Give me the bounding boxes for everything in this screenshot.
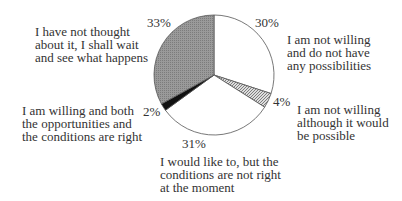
pct-label-s0: 30% bbox=[255, 16, 279, 29]
pct-label-s4: 33% bbox=[147, 16, 171, 29]
slice-label-s0: I am not willing and do not have any pos… bbox=[287, 33, 371, 72]
slice-label-s3: I am willing and both the opportunities … bbox=[22, 104, 142, 143]
slice-label-s1: I am not willing although it would be po… bbox=[297, 103, 389, 142]
pct-label-s3: 2% bbox=[143, 105, 160, 118]
pct-label-s1: 4% bbox=[273, 95, 290, 108]
slice-label-s4: I have not thought about it, I shall wai… bbox=[35, 25, 148, 64]
slice-label-s2: I would like to, but the conditions are … bbox=[160, 155, 281, 194]
pct-label-s2: 31% bbox=[182, 137, 206, 150]
